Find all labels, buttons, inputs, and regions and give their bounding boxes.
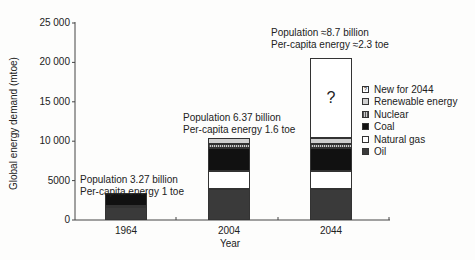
segment-new-for-2044: ? bbox=[310, 58, 352, 138]
segment-nuclear bbox=[208, 144, 250, 148]
legend-label: Oil bbox=[374, 146, 386, 157]
segment-renewable-energy bbox=[208, 138, 250, 144]
legend-swatch bbox=[362, 111, 369, 118]
segment-nuclear bbox=[310, 144, 352, 148]
segment-natural-gas bbox=[105, 206, 147, 208]
legend-label: Renewable energy bbox=[374, 96, 457, 107]
legend-label: Natural gas bbox=[374, 134, 425, 145]
legend-label: Coal bbox=[374, 121, 395, 132]
segment-renewable-energy bbox=[310, 138, 352, 144]
legend-item: Renewable energy bbox=[362, 96, 457, 109]
segment-natural-gas bbox=[310, 171, 352, 189]
segment-coal bbox=[208, 148, 250, 172]
legend-swatch bbox=[362, 98, 369, 105]
x-axis-label: Year bbox=[200, 238, 260, 249]
legend-swatch bbox=[362, 148, 369, 155]
legend-item: Coal bbox=[362, 121, 457, 134]
x-tick-label: 1964 bbox=[101, 225, 151, 236]
segment-natural-gas bbox=[208, 171, 250, 189]
legend-label: Nuclear bbox=[374, 109, 408, 120]
legend-label: New for 2044 bbox=[374, 84, 433, 95]
annotation-1964: Population 3.27 billionPer-capita energy… bbox=[80, 174, 184, 198]
bar-2004 bbox=[208, 0, 250, 220]
x-tick-label: 2004 bbox=[204, 225, 254, 236]
legend-item: Natural gas bbox=[362, 133, 457, 146]
annotation-2004: Population 6.37 billionPer-capita energy… bbox=[183, 112, 295, 136]
chart: Global energy demand (mtoe) 0500010 0001… bbox=[0, 0, 475, 260]
legend-swatch bbox=[362, 123, 369, 130]
legend: ?New for 2044Renewable energyNuclearCoal… bbox=[362, 83, 457, 158]
legend-item: Oil bbox=[362, 146, 457, 159]
legend-swatch bbox=[362, 136, 369, 143]
question-mark: ? bbox=[311, 89, 351, 107]
segment-oil bbox=[105, 207, 147, 220]
legend-item: Nuclear bbox=[362, 108, 457, 121]
segment-oil bbox=[310, 189, 352, 220]
legend-item: ?New for 2044 bbox=[362, 83, 457, 96]
x-tick-label: 2044 bbox=[306, 225, 356, 236]
legend-swatch: ? bbox=[362, 86, 369, 93]
annotation-2044: Population ≈8.7 billionPer-capita energy… bbox=[271, 27, 389, 51]
segment-oil bbox=[208, 189, 250, 220]
segment-coal bbox=[310, 148, 352, 172]
